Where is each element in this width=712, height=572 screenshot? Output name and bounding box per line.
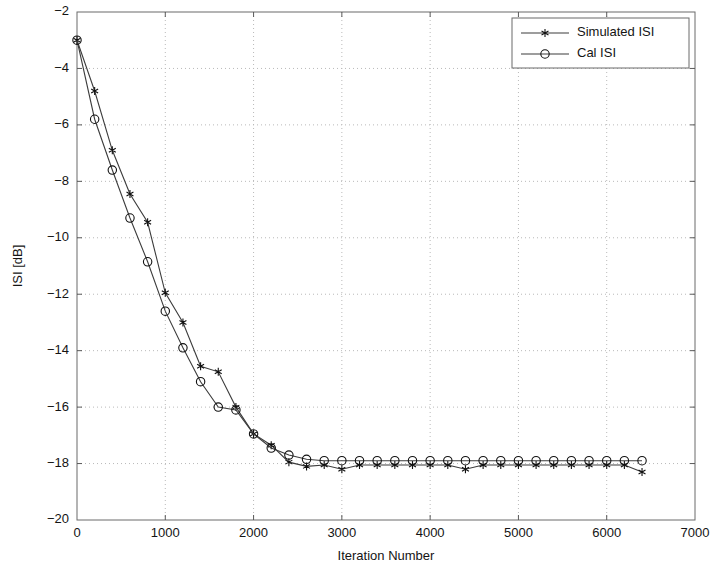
legend-label: Cal ISI [577,45,616,60]
data-point-marker [197,362,204,370]
y-tick-label: −8 [54,173,69,188]
x-tick-label: 5000 [504,525,533,540]
x-tick-label: 7000 [681,525,710,540]
data-point-marker [462,465,469,473]
data-point-marker [109,146,116,154]
y-tick-label: −20 [47,511,69,526]
chart-legend: Simulated ISICal ISI [512,18,689,68]
y-tick-label: −14 [47,342,69,357]
grid-lines [77,12,695,520]
isi-convergence-chart: 01000200030004000500060007000−20−18−16−1… [0,0,712,572]
chart-canvas: 01000200030004000500060007000−20−18−16−1… [0,0,712,572]
data-point-marker [91,87,98,95]
data-point-marker [215,368,222,376]
y-tick-label: −16 [47,399,69,414]
y-tick-label: −4 [54,60,69,75]
x-tick-label: 6000 [592,525,621,540]
x-tick-label: 1000 [151,525,180,540]
y-tick-label: −10 [47,229,69,244]
x-axis-label: Iteration Number [338,548,435,563]
legend-label: Simulated ISI [577,24,654,39]
y-axis-label: ISI [dB] [10,245,25,288]
data-point-marker [162,289,169,297]
y-tick-label: −12 [47,286,69,301]
y-tick-label: −6 [54,116,69,131]
data-point-marker [144,218,151,226]
axes-frame [77,12,695,520]
x-tick-label: 0 [73,525,80,540]
y-tick-label: −18 [47,455,69,470]
data-point-marker [639,468,646,476]
data-point-marker [179,318,186,326]
data-series [73,36,646,476]
data-point-marker [127,190,134,198]
x-tick-label: 4000 [416,525,445,540]
x-tick-label: 3000 [327,525,356,540]
data-point-marker [338,465,345,473]
x-tick-label: 2000 [239,525,268,540]
y-tick-label: −2 [54,3,69,18]
series-line-2 [77,40,642,461]
tick-marks [77,12,695,520]
